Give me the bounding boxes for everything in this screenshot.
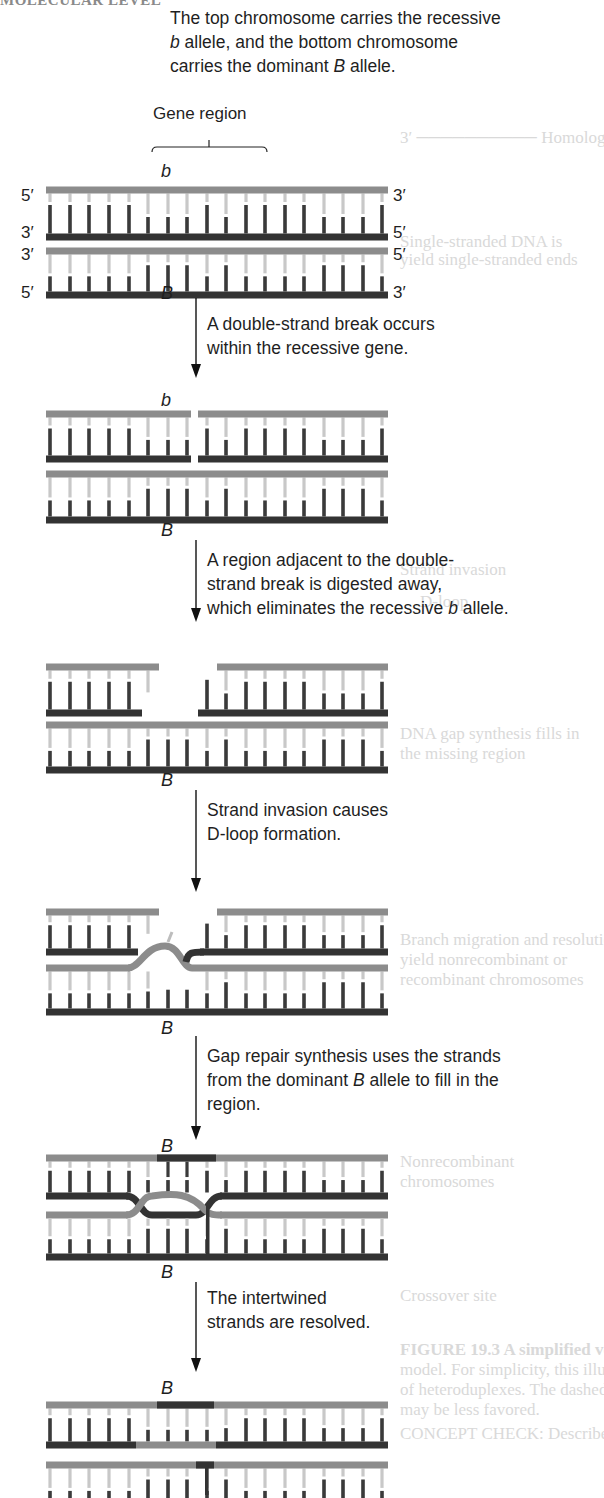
base-pair-rung: [341, 1229, 345, 1254]
base-pair-rung: [244, 1469, 247, 1488]
base-pair-rung: [302, 1219, 305, 1237]
base-pair-rung: [146, 489, 150, 517]
base-pair-rung: [185, 440, 189, 456]
base-pair-rung: [205, 205, 209, 234]
base-pair-rung: [361, 1409, 364, 1426]
base-pair-rung: [206, 1206, 210, 1254]
base-pair-rung: [322, 671, 325, 691]
step-caption-line: strands are resolved.: [207, 1310, 370, 1334]
base-pair-rung: [380, 993, 384, 1008]
base-pair-rung: [68, 418, 71, 426]
base-pair-rung: [87, 925, 91, 948]
base-pair-rung: [361, 1229, 365, 1254]
base-pair-rung: [283, 205, 287, 234]
base-pair-rung: [380, 682, 384, 710]
base-pair-rung: [283, 925, 287, 948]
base-pair-rung: [263, 1162, 266, 1168]
base-pair-rung: [205, 429, 209, 456]
base-pair-rung: [341, 255, 344, 263]
allele-label-dominant: B: [161, 1262, 173, 1283]
base-pair-rung: [146, 671, 149, 693]
step-caption-gap-repair: Gap repair synthesis uses the strands fr…: [207, 1044, 501, 1116]
base-pair-rung: [68, 1219, 71, 1237]
base-pair-rung: [263, 500, 267, 516]
base-pair-rung: [244, 418, 247, 426]
base-pair-rung: [322, 418, 325, 437]
five-prime-label: 5′: [393, 245, 406, 265]
base-pair-rung: [263, 205, 267, 234]
base-pair-rung: [146, 1162, 149, 1178]
base-pair-rung: [283, 1409, 286, 1416]
base-pair-rung: [48, 729, 51, 748]
base-pair-rung: [185, 255, 188, 263]
base-pair-rung: [361, 729, 364, 737]
base-pair-rung: [322, 916, 325, 933]
base-pair-rung: [302, 1491, 306, 1498]
base-pair-rung: [283, 1491, 287, 1498]
base-pair-rung: [361, 1162, 364, 1178]
base-pair-rung: [224, 1480, 228, 1498]
base-pair-rung: [48, 751, 52, 767]
base-pair-rung: [127, 205, 131, 234]
base-pair-rung: [380, 194, 383, 203]
step-caption-line: D-loop formation.: [207, 822, 388, 846]
base-pair-rung: [146, 478, 149, 486]
base-pair-rung: [127, 418, 130, 426]
base-pair-rung: [87, 729, 90, 748]
base-pair-rung: [127, 682, 131, 710]
base-pair-rung: [185, 418, 188, 437]
base-pair-rung: [107, 429, 111, 456]
base-pair-rung: [87, 500, 91, 516]
base-pair-rung: [322, 693, 326, 709]
dna-backbone: [46, 234, 388, 241]
base-pair-rung: [244, 478, 247, 498]
base-pair-rung: [244, 916, 247, 923]
base-pair-rung: [146, 1219, 149, 1226]
base-pair-rung: [185, 1229, 189, 1254]
base-pair-rung: [302, 671, 305, 679]
base-pair-rung: [107, 1409, 110, 1416]
base-pair-rung: [380, 1409, 383, 1416]
base-pair-rung: [68, 276, 72, 291]
base-pair-rung: [48, 916, 51, 923]
base-pair-rung: [127, 255, 130, 274]
base-pair-rung: [263, 682, 267, 710]
base-pair-rung: [244, 1171, 248, 1193]
base-pair-rung: [322, 1428, 326, 1441]
base-pair-rung: [283, 478, 286, 498]
base-pair-rung: [263, 916, 266, 923]
step-caption-line: strand break is digested away,: [207, 572, 509, 596]
base-pair-rung: [166, 217, 170, 234]
base-pair-rung: [302, 478, 305, 498]
base-pair-rung: [48, 993, 52, 1008]
base-pair-rung: [302, 1239, 306, 1253]
base-pair-rung: [302, 276, 306, 291]
base-pair-rung: [380, 916, 383, 923]
base-pair-rung: [68, 1491, 72, 1498]
base-pair-rung: [205, 924, 209, 949]
base-pair-rung: [107, 671, 110, 679]
base-pair-rung: [127, 500, 131, 516]
base-pair-rung: [302, 916, 305, 923]
base-pair-rung: [107, 682, 111, 710]
base-pair-rung: [87, 429, 91, 456]
base-pair-rung: [224, 1469, 227, 1477]
base-pair-rung: [68, 478, 71, 498]
base-pair-rung: [185, 1409, 188, 1427]
step-caption-double-strand-break: A double-strand break occurs within the …: [207, 312, 435, 360]
dna-backbone: [200, 949, 388, 956]
dna-backbone: [46, 1442, 136, 1449]
base-pair-rung: [87, 1469, 90, 1488]
base-pair-rung: [48, 1409, 51, 1416]
base-pair-rung: [322, 1180, 326, 1192]
base-pair-rung: [302, 500, 306, 516]
base-pair-rung: [205, 1409, 208, 1427]
base-pair-rung: [283, 500, 287, 516]
base-pair-rung: [322, 1480, 326, 1498]
base-pair-rung: [224, 1428, 228, 1441]
step-arrow-head: [191, 364, 201, 378]
base-pair-rung: [302, 682, 306, 710]
dna-backbone: [198, 411, 388, 418]
invading-strand: [186, 952, 204, 962]
base-pair-rung: [244, 205, 248, 234]
